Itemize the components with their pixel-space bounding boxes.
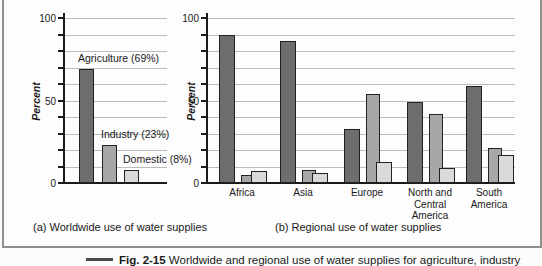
chart-b-category-label: Europe [335,187,399,199]
chart-b-category-label: Asia [271,187,335,199]
chart-a-y-axis-title: Percent [30,66,43,136]
caption-dash-icon [86,258,113,261]
chart-a-caption: (a) Worldwide use of water supplies [33,221,207,233]
chart-a-bar-label: Domestic (8%) [123,153,192,165]
chart-b-bar-domestic [376,162,392,183]
chart-b-y-tick-label: 0 [173,178,199,189]
chart-a-y-tick-label: 0 [30,178,56,189]
chart-b-bar-agriculture [219,35,235,184]
chart-b-bar-domestic [498,155,514,183]
chart-b-caption: (b) Regional use of water supplies [275,221,441,233]
chart-b-y-axis-title: Percent [185,66,198,136]
chart-b-category-label: North and Central America [398,187,462,222]
chart-b-bar-agriculture [280,41,296,183]
chart-b-category-label: Africa [210,187,274,199]
chart-b-bar-domestic [439,168,455,183]
chart-b-bar-agriculture [466,86,482,183]
chart-a-bar-label: Agriculture (69%) [78,52,159,64]
chart-a-y-axis [63,13,65,183]
chart-a-gridline [64,35,167,36]
chart-b-category-label: South America [457,187,521,210]
chart-b-bar-domestic [251,171,267,183]
chart-b-y-axis [206,13,208,183]
figure-caption: Fig. 2-15 Worldwide and regional use of … [86,254,520,266]
chart-b-y-tick-label: 100 [173,13,199,24]
chart-a-bar-industry [102,145,117,183]
chart-a-bar-domestic [124,170,139,183]
chart-b-bar-domestic [312,173,328,183]
figure-caption-text: Worldwide and regional use of water supp… [166,254,521,266]
chart-b-bar-agriculture [407,102,423,183]
chart-b-gridline [207,18,515,19]
figure-caption-label: Fig. 2-15 [119,254,166,266]
chart-a-y-tick-label: 100 [30,13,56,24]
chart-a-bar-label: Industry (23%) [101,128,169,140]
chart-b-gridline [207,35,515,36]
chart-a-gridline [64,18,167,19]
chart-b-bar-agriculture [344,129,360,183]
chart-b-gridline [207,51,515,52]
chart-b-gridline [207,68,515,69]
chart-a-bar-agriculture [79,69,94,183]
